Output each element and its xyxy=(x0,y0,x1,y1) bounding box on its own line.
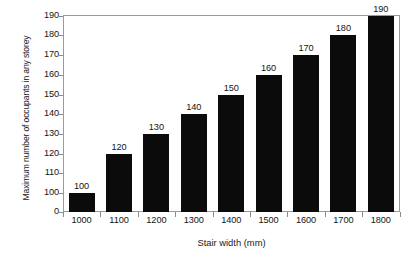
bar-1800[interactable] xyxy=(368,16,394,212)
bar-1500[interactable] xyxy=(256,75,282,212)
y-tick-label: 110 xyxy=(45,167,59,177)
bar-1600[interactable] xyxy=(293,55,319,212)
bar-value-1100: 120 xyxy=(100,142,137,152)
bar-value-1500: 160 xyxy=(250,63,287,73)
x-tick-label-1000: 1000 xyxy=(63,215,100,225)
x-tick-label-1100: 1100 xyxy=(100,215,137,225)
y-tick-label: 140 xyxy=(44,108,59,118)
bar-1200[interactable] xyxy=(143,134,169,212)
bar-value-1000: 100 xyxy=(63,181,100,191)
x-tick-label-1500: 1500 xyxy=(250,215,287,225)
bar-1100[interactable] xyxy=(106,154,132,212)
bar-value-1800: 190 xyxy=(362,4,399,14)
x-tick-label-1400: 1400 xyxy=(213,215,250,225)
y-tick-label: 100 xyxy=(44,187,59,197)
bar-value-1400: 150 xyxy=(213,83,250,93)
bar-chart-figure: Maximum number of occupants in any store… xyxy=(0,0,415,268)
y-tick-label: 120 xyxy=(44,148,59,158)
x-tick-label-1300: 1300 xyxy=(175,215,212,225)
x-tick-label-1800: 1800 xyxy=(362,215,399,225)
x-tick-mark xyxy=(400,212,401,217)
x-axis-title: Stair width (mm) xyxy=(63,237,400,248)
y-tick-label: 160 xyxy=(44,69,59,79)
y-tick-label: 190 xyxy=(44,10,59,20)
x-tick-label-1600: 1600 xyxy=(287,215,324,225)
x-tick-label-1700: 1700 xyxy=(325,215,362,225)
bar-1400[interactable] xyxy=(218,95,244,213)
bar-value-1700: 180 xyxy=(325,23,362,33)
y-tick-label: 170 xyxy=(44,49,59,59)
bar-value-1300: 140 xyxy=(175,102,212,112)
bar-1700[interactable] xyxy=(330,35,356,212)
bar-1000[interactable] xyxy=(69,193,95,212)
y-tick-label: 180 xyxy=(44,29,59,39)
bar-1300[interactable] xyxy=(181,114,207,212)
bar-value-1600: 170 xyxy=(287,43,324,53)
x-tick-label-1200: 1200 xyxy=(138,215,175,225)
y-tick-label: 150 xyxy=(44,89,59,99)
y-tick-label: 130 xyxy=(44,128,59,138)
y-tick-label: 0 xyxy=(54,206,59,216)
bar-value-1200: 130 xyxy=(138,122,175,132)
